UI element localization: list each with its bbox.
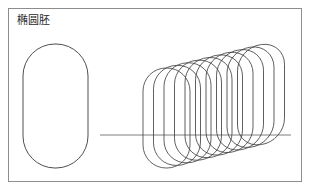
- figure-root: 椭圆胚: [0, 0, 311, 192]
- embryo-stack-slice: [217, 47, 264, 152]
- embryo-stack-slice: [175, 59, 222, 161]
- embryo-stack-slice: [154, 65, 201, 166]
- figure-drawing: [0, 0, 311, 192]
- embryo-stack-slice: [185, 56, 232, 159]
- embryo-stack-slice: [227, 44, 274, 150]
- embryo-stack-slice: [196, 53, 243, 157]
- embryo-rotation-stack: [143, 41, 285, 168]
- embryo-stack-slice: [143, 68, 190, 168]
- elliptical-embryo-single: [23, 44, 88, 168]
- elliptical-embryo-outline: [23, 44, 88, 168]
- embryo-stack-slice: [238, 41, 285, 148]
- embryo-stack-slice: [206, 50, 253, 154]
- embryo-stack-slice: [164, 62, 211, 163]
